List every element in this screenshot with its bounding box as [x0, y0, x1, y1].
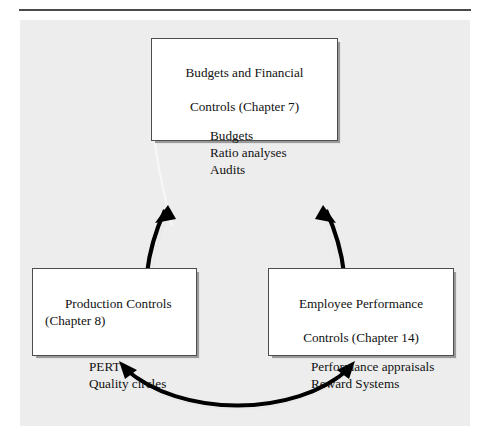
- node-title-production-line1: Production Controls: [65, 296, 172, 311]
- list-item: Reward Systems: [311, 375, 445, 392]
- node-title-production-line2: (Chapter 8): [45, 312, 186, 329]
- node-box-production-controls[interactable]: Production Controls (Chapter 8) PERT Qua…: [32, 268, 197, 356]
- node-title-employee: Employee Performance Controls (Chapter 1…: [277, 278, 445, 347]
- node-title-budgets-line1: Budgets and Financial: [186, 65, 304, 80]
- list-item: Ratio analyses: [210, 144, 327, 161]
- list-item: PERT: [89, 358, 186, 375]
- node-items-budgets: Budgets Ratio analyses Audits: [162, 127, 327, 178]
- node-items-employee: Performance appraisals Reward Systems: [277, 358, 445, 392]
- figure-panel: Budgets and Financial Controls (Chapter …: [20, 20, 470, 426]
- node-title-employee-line2: Controls (Chapter 14): [303, 330, 419, 345]
- node-title-budgets-line2: Controls (Chapter 7): [190, 99, 299, 114]
- node-title-employee-line1: Employee Performance: [299, 296, 423, 311]
- list-item: Performance appraisals: [311, 358, 445, 375]
- list-item: Quality circles: [89, 375, 186, 392]
- node-title-budgets: Budgets and Financial Controls (Chapter …: [162, 47, 327, 116]
- node-box-budgets-financial-controls[interactable]: Budgets and Financial Controls (Chapter …: [151, 38, 338, 141]
- list-item: Budgets: [210, 127, 327, 144]
- list-item: Audits: [210, 161, 327, 178]
- header-divider-rule: [19, 9, 471, 11]
- node-items-production: PERT Quality circles: [45, 358, 186, 392]
- node-box-employee-performance-controls[interactable]: Employee Performance Controls (Chapter 1…: [268, 268, 454, 356]
- node-title-production: Production Controls (Chapter 8): [45, 278, 186, 347]
